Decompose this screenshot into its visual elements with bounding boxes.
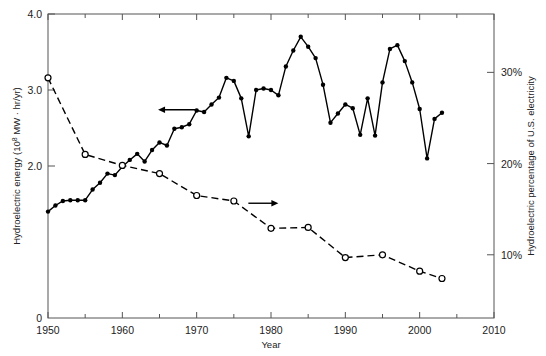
data-point-filled (380, 80, 384, 84)
chart-canvas: 1950196019701980199020002010 02.03.04.0 … (0, 0, 546, 356)
y-tick-label: 4.0 (27, 8, 42, 20)
data-point-filled (403, 59, 407, 63)
data-point-filled (432, 117, 436, 121)
data-point-open (342, 255, 348, 261)
data-point-filled (261, 86, 265, 90)
data-point-filled (373, 133, 377, 137)
data-point-filled (194, 108, 198, 112)
data-point-filled (365, 96, 369, 100)
data-point-open (439, 276, 445, 282)
x-tick-label: 2010 (482, 324, 506, 336)
y-axis-left-title: Hydroelectric energy (108 MW · hr/yr) (11, 87, 23, 245)
data-point-filled (425, 156, 429, 160)
data-point-filled (135, 152, 139, 156)
data-point-filled (395, 43, 399, 47)
y-tick-label: 2.0 (27, 160, 42, 172)
data-point-open (305, 224, 311, 230)
data-point-filled (328, 120, 332, 124)
data-point-open (380, 252, 386, 258)
data-point-open (417, 268, 423, 274)
data-point-filled (180, 125, 184, 129)
data-point-filled (83, 198, 87, 202)
data-point-filled (202, 110, 206, 114)
data-point-filled (150, 148, 154, 152)
chart-figure: 1950196019701980199020002010 02.03.04.0 … (0, 0, 546, 356)
data-point-filled (388, 47, 392, 51)
data-point-filled (417, 107, 421, 111)
data-point-filled (410, 80, 414, 84)
data-point-filled (321, 82, 325, 86)
data-point-filled (284, 64, 288, 68)
data-point-filled (209, 102, 213, 106)
data-point-filled (276, 93, 280, 97)
data-point-filled (61, 199, 65, 203)
x-tick-label: 1970 (185, 324, 209, 336)
data-point-filled (247, 134, 251, 138)
data-point-filled (291, 48, 295, 52)
data-point-filled (254, 88, 258, 92)
data-point-filled (232, 79, 236, 83)
data-point-filled (157, 140, 161, 144)
data-point-filled (313, 56, 317, 60)
y2-tick-label: 20% (501, 158, 522, 170)
data-point-filled (142, 159, 146, 163)
data-point-filled (358, 133, 362, 137)
x-tick-label: 1960 (111, 324, 135, 336)
data-point-filled (306, 44, 310, 48)
data-point-filled (90, 187, 94, 191)
x-tick-label: 1990 (334, 324, 358, 336)
data-point-filled (217, 95, 221, 99)
data-point-open (194, 193, 200, 199)
data-point-filled (187, 122, 191, 126)
data-point-open (45, 75, 51, 81)
data-point-filled (172, 127, 176, 131)
data-point-filled (53, 203, 57, 207)
y-tick-label: 3.0 (27, 84, 42, 96)
data-point-filled (105, 171, 109, 175)
data-point-filled (299, 35, 303, 39)
y-axis-right-title: Hydroelectric percentage of U.S. electri… (525, 76, 536, 256)
data-point-filled (165, 143, 169, 147)
data-point-open (268, 225, 274, 231)
data-point-filled (440, 111, 444, 115)
data-point-filled (113, 173, 117, 177)
x-tick-label: 2000 (408, 324, 432, 336)
data-point-open (119, 162, 125, 168)
data-point-open (82, 151, 88, 157)
x-tick-label: 1950 (36, 324, 60, 336)
data-point-filled (269, 88, 273, 92)
y2-tick-label: 10% (501, 249, 522, 261)
x-axis-title: Year (261, 339, 280, 350)
data-point-filled (46, 209, 50, 213)
y2-tick-label: 30% (501, 66, 522, 78)
x-tick-label: 1980 (259, 324, 283, 336)
data-point-filled (224, 76, 228, 80)
data-point-filled (336, 111, 340, 115)
data-point-filled (351, 106, 355, 110)
chart-background (0, 0, 546, 356)
y-tick-label: 0 (36, 312, 42, 324)
data-point-filled (343, 102, 347, 106)
data-point-open (231, 198, 237, 204)
data-point-filled (76, 198, 80, 202)
data-point-filled (239, 96, 243, 100)
data-point-open (157, 171, 163, 177)
data-point-filled (128, 158, 132, 162)
data-point-filled (98, 181, 102, 185)
data-point-filled (68, 198, 72, 202)
